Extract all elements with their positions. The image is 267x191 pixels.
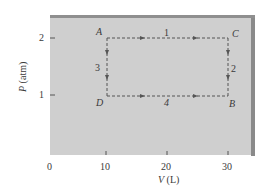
panel-top-band (50, 15, 255, 18)
state-label-c: C (232, 28, 239, 39)
panel-shadow (251, 16, 255, 156)
state-label-d: D (95, 97, 104, 108)
state-label-a: A (95, 26, 103, 37)
x-tick-label-20: 20 (161, 161, 171, 172)
x-tick-label-0: 0 (47, 161, 52, 172)
plot-panel (50, 15, 251, 155)
path-label-2: 2 (231, 63, 236, 74)
x-tick-label-10: 10 (100, 161, 110, 172)
y-tick-label-1: 1 (39, 89, 44, 100)
pv-diagram: A C D B 1 2 3 4 2 1 0 10 20 30 V (L) P (… (0, 0, 267, 191)
path-label-1: 1 (164, 27, 169, 38)
x-axis-label: V (L) (158, 174, 179, 186)
path-label-3: 3 (95, 62, 100, 73)
state-label-b: B (229, 98, 235, 109)
x-tick-label-30: 30 (222, 161, 232, 172)
y-axis-label: P (atm) (17, 62, 29, 93)
path-label-4: 4 (164, 97, 169, 108)
y-tick-label-2: 2 (39, 32, 44, 43)
